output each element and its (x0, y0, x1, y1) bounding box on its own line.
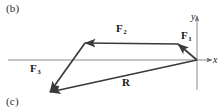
vector-f1 (178, 44, 197, 60)
vector-label-f3-sub: 3 (37, 68, 41, 76)
vector-addition-figure: (b) (c) F1 F2 F3 R x y (0, 0, 224, 111)
vector-label-f1-base: F (181, 29, 188, 41)
vector-f2 (85, 43, 178, 44)
y-axis-label: y (191, 12, 195, 22)
vector-label-f1: F1 (181, 30, 191, 41)
vector-label-f2-base: F (116, 22, 123, 34)
vector-label-f3-base: F (30, 62, 37, 74)
vector-label-r: R (122, 77, 130, 88)
x-axis-label: x (213, 55, 217, 65)
vector-label-r-base: R (122, 76, 130, 88)
panel-label-b: (b) (6, 2, 19, 14)
vector-label-f3: F3 (30, 63, 40, 74)
vector-label-f2-sub: 2 (123, 28, 127, 36)
vector-label-f2: F2 (116, 23, 126, 34)
vector-label-f1-sub: 1 (188, 35, 192, 43)
panel-label-c: (c) (6, 95, 19, 107)
vector-f3 (50, 43, 85, 92)
